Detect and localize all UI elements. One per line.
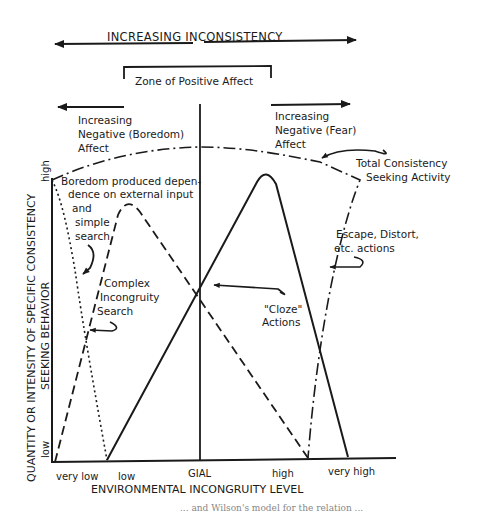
x-axis-title: ENVIRONMENTAL INCONGRUITY LEVEL [91, 483, 304, 496]
x-tick-very-high: very high [328, 466, 375, 477]
boredom-text-3: and [72, 202, 92, 214]
escape-text-1: Escape, Distort, [336, 228, 419, 240]
y-axis-title-2: SEEKING BEHAVIOR [39, 281, 52, 390]
total-text-2: Seeking Activity [366, 171, 451, 183]
x-tick-high: high [272, 468, 294, 479]
fear-label-3: Affect [275, 138, 306, 150]
boredom-label-1: Increasing [78, 114, 132, 126]
cloze-annotation: "Cloze" Actions [214, 285, 302, 328]
boredom-text-2: dence on external input [68, 188, 193, 200]
boredom-annotation: Boredom produced depen- dence on externa… [61, 175, 201, 274]
boredom-text-1: Boredom produced depen- [61, 175, 201, 187]
cloze-text-2: Actions [262, 316, 300, 328]
x-axis-labels: very low low GIAL high very high ENVIRON… [56, 466, 375, 496]
complex-text-3: Search [97, 305, 133, 317]
y-low-label: low [40, 441, 51, 458]
y-high-label: high [40, 160, 51, 182]
figure-caption: ... and Wilson's model for the relation … [180, 503, 363, 512]
zone-bracket: Zone of Positive Affect [124, 66, 271, 87]
escape-text-2: etc. actions [334, 242, 395, 254]
cloze-text-1: "Cloze" [264, 303, 302, 315]
boredom-label-3: Affect [78, 142, 109, 154]
boredom-region: Increasing Negative (Boredom) Affect [58, 107, 184, 154]
inconsistency-arrow: INCREASING INCONSISTENCY [55, 30, 356, 44]
escape-annotation: Escape, Distort, etc. actions [330, 228, 419, 267]
y-axis-title-1: QUANTITY OR INTENSITY OF SPECIFIC CONSIS… [25, 193, 38, 482]
fear-label-2: Negative (Fear) [275, 124, 356, 136]
x-tick-gial: GIAL [188, 468, 212, 479]
boredom-label-2: Negative (Boredom) [78, 128, 184, 140]
complex-text-2: Incongruity [100, 291, 160, 303]
boredom-text-4: simple [75, 216, 110, 228]
zone-label: Zone of Positive Affect [135, 75, 253, 87]
x-tick-very-low: very low [56, 471, 98, 482]
fear-label-1: Increasing [275, 110, 329, 122]
y-axis-labels: high low QUANTITY OR INTENSITY OF SPECIF… [25, 160, 52, 482]
consistency-diagram: INCREASING INCONSISTENCY Zone of Positiv… [0, 0, 477, 512]
total-text-1: Total Consistency [355, 157, 447, 169]
complex-incongruity-curve [55, 204, 308, 462]
boredom-text-5: search [75, 230, 110, 242]
fear-region: Increasing Negative (Fear) Affect [271, 104, 356, 150]
complex-text-1: Complex [104, 277, 150, 289]
total-annotation: Total Consistency Seeking Activity [322, 150, 451, 183]
x-tick-low: low [118, 471, 135, 482]
inconsistency-title: INCREASING INCONSISTENCY [107, 30, 283, 44]
